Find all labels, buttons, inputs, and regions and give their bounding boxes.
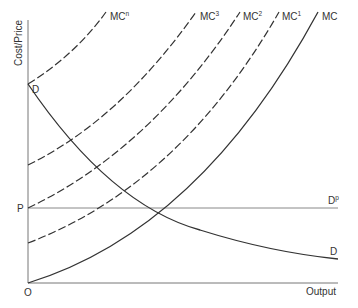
- mcn-label: MCn: [110, 10, 130, 22]
- cost-price-diagram: MCn MC3 MC2 MC1 MC Cost/Price Output O P…: [0, 0, 358, 308]
- mc3-label: MC3: [200, 10, 220, 22]
- demand-end-label: D: [330, 246, 337, 257]
- mc2-curve: [28, 12, 240, 208]
- demand-curve: [28, 84, 338, 259]
- mc2-label: MC2: [243, 10, 263, 22]
- x-axis-label: Output: [306, 286, 336, 297]
- y-axis-label: Cost/Price: [13, 19, 24, 66]
- price-label: P: [17, 203, 24, 214]
- mc-label: MC: [322, 11, 338, 22]
- mc3-curve: [28, 12, 196, 165]
- mc1-label: MC1: [282, 10, 302, 22]
- mcn-curve: [28, 12, 106, 84]
- perfect-demand-label: Dp: [328, 194, 339, 206]
- mc-curve: [28, 12, 318, 283]
- diagram-svg: MCn MC3 MC2 MC1 MC Cost/Price Output O P…: [0, 0, 358, 308]
- origin-label: O: [24, 287, 32, 298]
- demand-start-label: D: [32, 84, 39, 95]
